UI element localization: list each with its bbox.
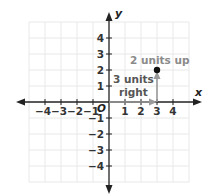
x-tick-label: −4	[35, 105, 51, 117]
y-tick-label: −4	[88, 160, 104, 172]
x-axis-right-arrow-icon	[193, 99, 202, 106]
y-tick-label: 3	[97, 48, 104, 60]
x-tick-label: 3	[153, 105, 160, 117]
y-tick-label: 2	[97, 64, 104, 76]
move-right-arrow	[109, 99, 157, 106]
y-axis-up-arrow-icon	[106, 12, 113, 21]
y-tick-label: 1	[97, 80, 104, 92]
x-tick-label: 1	[121, 105, 128, 117]
y-tick-label: 4	[97, 32, 104, 44]
x-tick-label: 2	[137, 105, 144, 117]
x-tick-label: −2	[67, 105, 83, 117]
vertical-move-label: 2 units up	[130, 54, 190, 66]
plotted-point	[154, 67, 160, 73]
y-axis	[106, 12, 113, 194]
x-axis-label: x	[194, 86, 203, 99]
x-axis-left-arrow-icon	[16, 99, 25, 106]
coordinate-plane: x y O −4 −3 −2 −1 1 2 3 4 4 3 2 1 −1 −2 …	[0, 0, 208, 195]
y-tick-label: −1	[88, 112, 104, 124]
horizontal-move-label-line1: 3 units	[113, 73, 154, 85]
y-axis-label: y	[115, 7, 123, 20]
y-axis-down-arrow-icon	[106, 185, 113, 194]
horizontal-move-label-line2: right	[119, 86, 148, 98]
y-tick-label: −3	[88, 144, 104, 156]
x-tick-label: −3	[51, 105, 67, 117]
y-tick-label: −2	[88, 128, 104, 140]
x-tick-label: 4	[169, 105, 176, 117]
